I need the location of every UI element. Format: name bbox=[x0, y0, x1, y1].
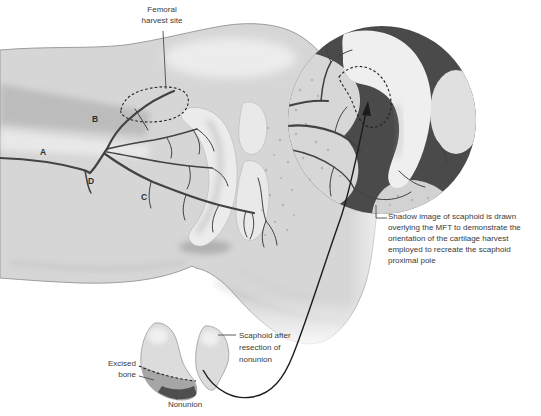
shadow-note-text: Shadow image of scaphoid is drawn overly… bbox=[388, 211, 540, 266]
vessel-label-b: B bbox=[92, 114, 98, 124]
nonunion-label: Nonunion bbox=[150, 400, 220, 411]
knee-highlight bbox=[164, 38, 296, 78]
figure-medical-illustration: Femoral harvest site A B C D Shadow imag… bbox=[0, 0, 541, 416]
scaphoid-after-shape bbox=[196, 326, 229, 390]
excised-bone-label: Excised bone bbox=[96, 359, 136, 380]
vessel-label-d: D bbox=[88, 176, 94, 186]
vessel-label-a: A bbox=[40, 147, 46, 157]
femoral-harvest-site-label: Femoral harvest site bbox=[126, 5, 198, 26]
scaphoid-after-label: Scaphoid after resection of nonunion bbox=[239, 330, 329, 366]
trochlea-lobes bbox=[236, 102, 269, 241]
vessel-label-c: C bbox=[141, 192, 147, 202]
